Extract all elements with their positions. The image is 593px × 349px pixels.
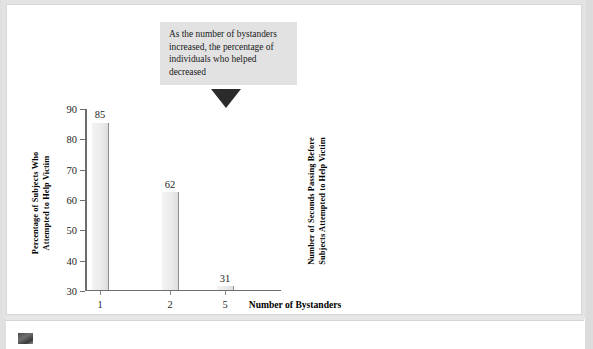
y-tick-mark <box>80 170 85 171</box>
y-tick-label: 80 <box>67 134 78 145</box>
y-tick-label: 30 <box>67 286 78 297</box>
plot-area-left: 30405060708090851622315 <box>85 109 281 291</box>
chart-panel-seconds-elapsed: 5070901101301501705219321665 As the numb… <box>307 5 583 316</box>
x-tick-mark <box>170 291 171 295</box>
figure-frame: Percentage of Subjects Who Attempted to … <box>6 4 582 315</box>
x-tick-mark <box>100 291 101 295</box>
bar-left-5 <box>217 286 234 289</box>
y-axis-title-left: Percentage of Subjects Who Attempted to … <box>31 113 52 293</box>
figure-page: Percentage of Subjects Who Attempted to … <box>0 0 593 349</box>
bar-left-1 <box>92 123 109 290</box>
bar-value-label-left-5: 31 <box>220 273 231 284</box>
y-tick-label: 70 <box>67 164 78 175</box>
bar-left-2 <box>162 192 179 289</box>
bar-value-label-left-1: 85 <box>95 109 106 120</box>
y-axis-line-left <box>85 109 87 291</box>
y-axis-title-left-line2: Attempted to Help Victim <box>42 113 53 293</box>
chart-panel-percentage-helped: Percentage of Subjects Who Attempted to … <box>7 5 307 316</box>
y-axis-title-right-line2: Subjects Attempted to Help Victim <box>318 105 329 297</box>
y-tick-mark <box>80 230 85 231</box>
y-tick-mark <box>80 200 85 201</box>
y-tick-mark <box>80 109 85 110</box>
y-tick-mark <box>80 261 85 262</box>
callout-left: As the number of bystanders increased, t… <box>160 22 297 85</box>
x-tick-mark <box>225 291 226 295</box>
page-bottom-strip <box>6 320 584 349</box>
y-tick-label: 50 <box>67 225 78 236</box>
y-tick-label: 40 <box>67 255 78 266</box>
x-axis-line-left <box>85 290 281 292</box>
y-tick-label: 60 <box>67 195 78 206</box>
y-tick-mark <box>80 139 85 140</box>
y-tick-mark <box>80 291 85 292</box>
y-tick-label: 90 <box>67 104 78 115</box>
y-axis-title-right-line1: Number of Seconds Passing Before <box>307 105 318 297</box>
bar-value-label-left-2: 62 <box>165 179 176 190</box>
callout-arrow-down-icon-left <box>211 89 241 108</box>
thumbnail-icon <box>18 333 33 344</box>
y-axis-title-left-line1: Percentage of Subjects Who <box>31 113 42 293</box>
y-axis-title-right: Number of Seconds Passing Before Subject… <box>307 105 328 297</box>
page-right-gutter <box>585 0 593 349</box>
x-axis-title: Number of Bystanders <box>7 299 583 310</box>
